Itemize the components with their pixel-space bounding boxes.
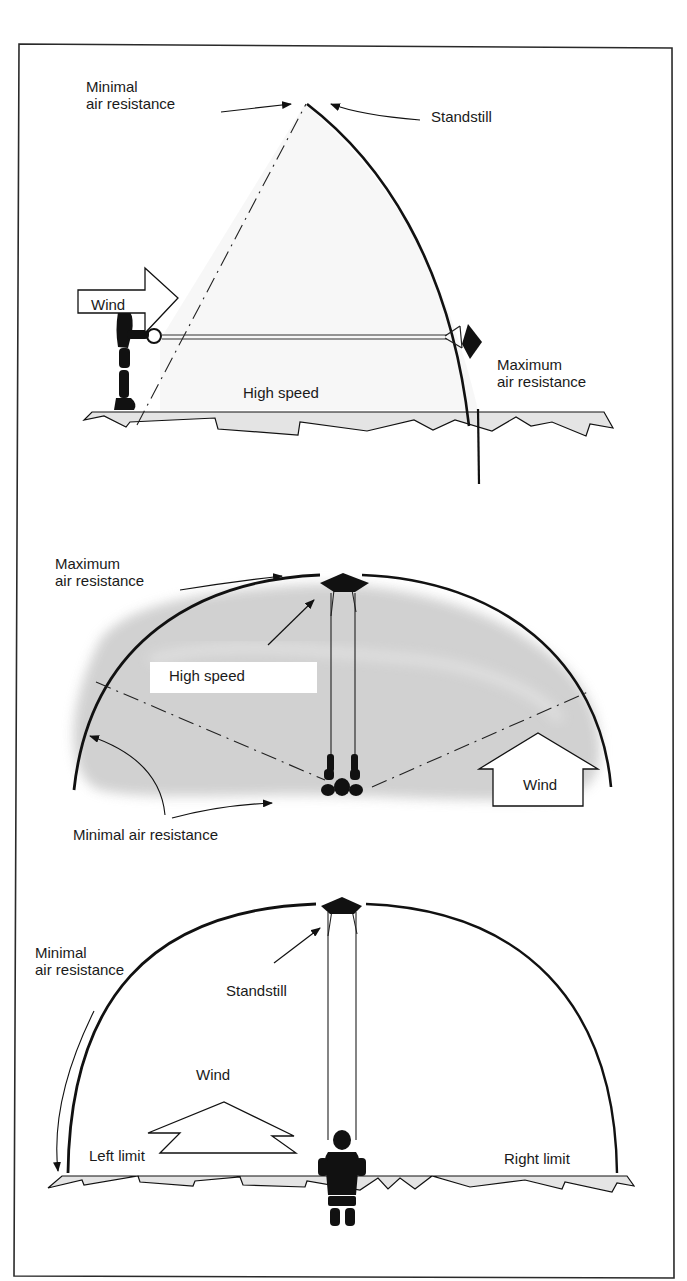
panel-front-view bbox=[48, 897, 634, 1226]
label-minimal-air-resistance: Minimal air resistance bbox=[86, 78, 175, 112]
label-standstill: Standstill bbox=[431, 108, 492, 125]
kite-wind-window-figure: Minimal air resistance Standstill Wind H… bbox=[0, 0, 687, 1281]
label-line: air resistance bbox=[497, 373, 586, 390]
label-maximum-air-resistance: Maximum air resistance bbox=[497, 356, 586, 390]
label-minimal-air-resistance: Minimal air resistance bbox=[73, 826, 218, 843]
label-high-speed: High speed bbox=[169, 667, 245, 684]
label-minimal-air-resistance: Minimal air resistance bbox=[35, 944, 124, 978]
label-line: Maximum bbox=[55, 555, 144, 572]
panel-side-view bbox=[78, 104, 613, 484]
label-line: Maximum bbox=[497, 356, 586, 373]
kite-icon bbox=[321, 897, 362, 914]
diagram-artwork bbox=[0, 0, 687, 1281]
label-line: Minimal bbox=[86, 78, 175, 95]
label-wind: Wind bbox=[196, 1066, 230, 1083]
label-right-limit: Right limit bbox=[504, 1150, 570, 1167]
label-left-limit: Left limit bbox=[89, 1147, 145, 1164]
label-line: Minimal bbox=[35, 944, 124, 961]
label-line: air resistance bbox=[55, 572, 144, 589]
label-line: air resistance bbox=[35, 961, 124, 978]
ground-strip bbox=[84, 412, 613, 436]
label-wind: Wind bbox=[523, 776, 557, 793]
label-line: air resistance bbox=[86, 95, 175, 112]
label-high-speed: High speed bbox=[243, 384, 319, 401]
label-maximum-air-resistance: Maximum air resistance bbox=[55, 555, 144, 589]
label-standstill: Standstill bbox=[226, 982, 287, 999]
label-wind: Wind bbox=[91, 296, 125, 313]
wind-arrow-up-icon bbox=[148, 1102, 296, 1153]
kite-icon bbox=[462, 324, 482, 359]
